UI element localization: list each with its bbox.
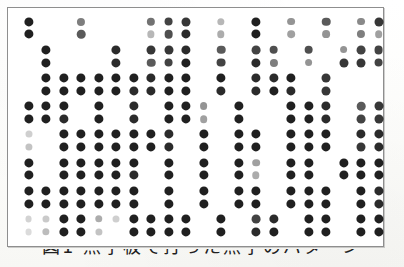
braille-dot-faint [25, 144, 32, 151]
braille-dot [129, 214, 138, 223]
braille-dot [146, 227, 155, 236]
braille-dot [199, 130, 208, 139]
braille-dot [286, 114, 295, 123]
braille-dot [164, 186, 173, 195]
braille-dot [164, 58, 173, 67]
braille-dot [181, 45, 190, 54]
braille-dot [357, 45, 366, 54]
braille-dot [41, 58, 50, 67]
braille-dot [181, 227, 190, 236]
braille-dot [286, 86, 295, 95]
braille-dot [111, 86, 120, 95]
braille-dot [374, 214, 383, 223]
braille-dot-faint [95, 215, 102, 222]
braille-dot [41, 186, 50, 195]
braille-dot [77, 17, 85, 25]
braille-dot [304, 186, 313, 195]
braille-dot [374, 130, 383, 139]
braille-dot [321, 143, 330, 152]
braille-dot [181, 102, 190, 111]
braille-dot-faint [375, 30, 383, 38]
braille-dot [181, 58, 190, 67]
braille-dot-grid [8, 8, 383, 246]
braille-dot [41, 199, 50, 208]
braille-dot [129, 227, 138, 236]
braille-dot [59, 227, 68, 236]
braille-dot [41, 45, 50, 54]
braille-dot [234, 199, 243, 208]
braille-dot [111, 186, 120, 195]
braille-dot [59, 199, 68, 208]
braille-dot [94, 102, 103, 111]
braille-dot [181, 30, 190, 39]
braille-dot [321, 130, 330, 139]
braille-dot [24, 158, 33, 167]
braille-dot [357, 114, 366, 123]
braille-dot [164, 30, 173, 39]
braille-dot [94, 199, 103, 208]
braille-dot [251, 143, 260, 152]
braille-dot [251, 186, 260, 195]
braille-dot [251, 199, 260, 208]
braille-dot [251, 227, 260, 236]
braille-dot [164, 143, 173, 152]
braille-dot [59, 171, 68, 180]
braille-dot-faint [25, 215, 32, 222]
braille-dot [234, 171, 243, 180]
braille-dot [304, 199, 313, 208]
braille-dot [251, 86, 260, 95]
braille-dot [146, 45, 155, 54]
braille-dot [251, 130, 260, 139]
braille-dot [111, 130, 120, 139]
braille-dot [164, 214, 173, 223]
braille-dot [129, 102, 138, 111]
braille-dot [321, 227, 330, 236]
braille-dot [181, 17, 190, 26]
braille-dot [24, 171, 33, 180]
braille-dot [269, 45, 278, 54]
braille-dot [94, 86, 103, 95]
braille-dot [374, 45, 383, 54]
braille-dot [269, 214, 278, 223]
braille-dot [76, 227, 85, 236]
braille-dot [286, 186, 295, 195]
braille-dot-faint [252, 159, 260, 167]
braille-dot [59, 73, 68, 82]
braille-dot [164, 199, 173, 208]
braille-dot [357, 102, 366, 111]
braille-dot [129, 171, 138, 180]
braille-dot [59, 214, 68, 223]
braille-dot [269, 73, 278, 82]
braille-dot-faint [200, 115, 208, 123]
braille-dot [59, 86, 68, 95]
braille-dot [269, 58, 277, 66]
braille-dot [234, 186, 243, 195]
braille-dot [164, 45, 173, 54]
braille-dot [199, 171, 208, 180]
braille-dot [77, 30, 86, 39]
braille-dot [356, 186, 365, 195]
braille-dot-faint [217, 18, 224, 25]
braille-dot [147, 17, 155, 25]
braille-dot [94, 171, 103, 180]
braille-dot [164, 73, 173, 82]
braille-dot [146, 73, 155, 82]
braille-dot-faint [25, 228, 32, 235]
braille-dot [24, 186, 33, 195]
braille-dot [217, 58, 226, 67]
braille-dot [76, 199, 85, 208]
braille-dot [41, 114, 50, 123]
braille-dot [111, 73, 120, 82]
braille-dot [374, 227, 383, 236]
braille-dot [321, 86, 330, 95]
braille-dot [94, 158, 103, 167]
braille-dot [322, 17, 331, 26]
braille-dot [41, 73, 50, 82]
braille-dot [356, 58, 365, 67]
braille-dot [304, 130, 313, 139]
braille-dot [374, 171, 383, 180]
braille-dot [304, 158, 313, 167]
braille-dot [129, 186, 138, 195]
figure-frame [7, 7, 384, 247]
braille-dot [217, 45, 226, 54]
